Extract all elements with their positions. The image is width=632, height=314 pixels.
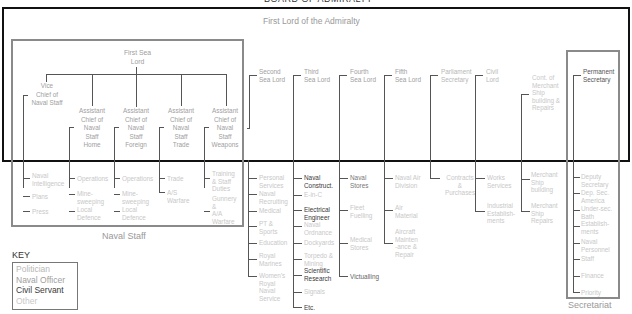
connector [159, 127, 164, 128]
connector [573, 226, 580, 227]
div-operations-home: Operations [77, 175, 108, 183]
connector [136, 67, 137, 107]
div-as-warfare: A/S Warfare [167, 189, 190, 204]
acns-trade: Assistant Chief of Naval Staff Trade [163, 107, 199, 150]
connector [247, 128, 250, 129]
key-box: Politician Naval Officer Civil Servant O… [12, 262, 78, 310]
chart-title: BOARD OF ADMIRALTY [264, 0, 373, 4]
connector [384, 75, 385, 243]
div-local-defence-home: Local Defence [77, 206, 101, 221]
second-sea-lord: Second Sea Lord [259, 68, 285, 83]
second-item: PT & Sports [259, 220, 277, 235]
civil-item: Industrial Establish- ments [487, 202, 515, 225]
secretariat-item: Deputy Secretary [581, 173, 608, 188]
second-item: Women's Royal Naval Service [259, 272, 285, 302]
parliament-secretary: Parliament Secretary [441, 68, 472, 83]
connector [573, 75, 581, 76]
connector [573, 292, 580, 293]
connector [69, 178, 75, 179]
cont-item: Merchant Ship building [531, 171, 558, 194]
connector [46, 74, 226, 75]
fourth-sea-lord: Fourth Sea Lord [350, 68, 376, 83]
third-sea-lord: Third Sea Lord [304, 68, 330, 83]
key-other: Other [16, 296, 77, 307]
fifth-item: Air Material [395, 204, 418, 219]
first-sea-lord: First Sea Lord [115, 48, 160, 66]
connector [293, 307, 302, 308]
connector [159, 192, 165, 193]
fourth-item: Medical Stores [350, 236, 372, 251]
third-item: E-in-C [304, 191, 322, 199]
second-item: Personal Services [259, 174, 284, 189]
secretariat-item: Establish- ments [581, 220, 609, 235]
connector [573, 243, 580, 244]
connector [339, 276, 348, 277]
connector [384, 243, 393, 244]
connector [475, 75, 476, 211]
connector [430, 75, 431, 179]
connector [339, 178, 348, 179]
connector [204, 178, 210, 179]
connector [92, 74, 93, 106]
div-plans: Plans [32, 193, 48, 201]
third-item: Electrical Engineer [304, 206, 330, 221]
cont-item: Merchant Ship Repairs [531, 202, 558, 225]
permanent-secretary: Permanent Secretary [583, 68, 614, 83]
connector [573, 259, 580, 260]
connector [293, 195, 302, 196]
connector [114, 178, 120, 179]
connector [159, 127, 160, 162]
controller-merchant-shipbuilding: Cont. of Merchant Ship building & Repair… [532, 74, 560, 112]
div-minesweeping-foreign: Mine- sweeping [122, 190, 149, 205]
connector [114, 194, 120, 195]
connector [204, 127, 209, 128]
second-item: Naval Recruiting [259, 190, 288, 205]
connector [573, 177, 580, 178]
connector [521, 211, 530, 212]
civil-item: Works Services [487, 174, 512, 189]
connector [339, 243, 348, 244]
connector [573, 210, 580, 211]
connector [339, 75, 347, 76]
connector [573, 75, 574, 293]
fourth-item: Fleet Fuelling [350, 204, 372, 219]
connector [573, 276, 580, 277]
connector [573, 193, 580, 194]
fifth-item: Aircraft Mainten -ance & Repair [395, 228, 418, 258]
connector [23, 95, 24, 188]
connector [248, 178, 257, 179]
div-local-defence-foreign: Local Defence [122, 206, 146, 221]
secretariat-item: Staff [581, 255, 594, 263]
vcns: Vice Chief of Naval Staff [28, 82, 66, 108]
connector [475, 178, 485, 179]
connector [293, 178, 302, 179]
third-item: Etc. [304, 304, 315, 312]
connector [248, 259, 257, 260]
div-training-staff-duties: Training & Staff Duties [212, 170, 235, 193]
connector [521, 94, 529, 95]
connector [293, 75, 301, 76]
connector [475, 211, 485, 212]
secretariat-item: Naval Personnel [581, 238, 610, 253]
div-naval-intelligence: Naval Intelligence [32, 172, 64, 187]
connector [226, 74, 227, 106]
connector [339, 210, 348, 211]
div-press: Press [32, 208, 48, 216]
connector [293, 226, 302, 227]
parl-item: Contracts & Purchases [440, 174, 480, 197]
secretariat-item: Under-sec. Bath [581, 205, 612, 220]
civil-lord: Civil Lord [486, 68, 499, 83]
secretariat-label: Secretariat [568, 300, 612, 310]
connector [293, 292, 302, 293]
connector [293, 259, 302, 260]
acns-weapons: Assistant Chief of Naval Staff Weapons [207, 107, 243, 150]
connector [248, 243, 257, 244]
connector [23, 196, 30, 197]
connector [248, 194, 257, 195]
connector [204, 211, 210, 212]
connector [23, 211, 30, 212]
connector [23, 178, 30, 179]
second-item: Royal Marines [259, 252, 282, 267]
naval-staff-label: Naval Staff [102, 231, 146, 241]
connector [69, 127, 74, 128]
